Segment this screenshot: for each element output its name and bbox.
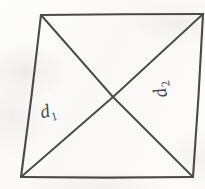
- edge-top: [41, 14, 203, 15]
- edge-bottom: [21, 177, 193, 178]
- edge-right: [193, 14, 203, 177]
- diagram-canvas: d1 d2: [0, 0, 205, 189]
- edge-left: [21, 15, 41, 177]
- quadrilateral-diagram: [0, 0, 205, 189]
- diagonal-d2: [41, 15, 193, 177]
